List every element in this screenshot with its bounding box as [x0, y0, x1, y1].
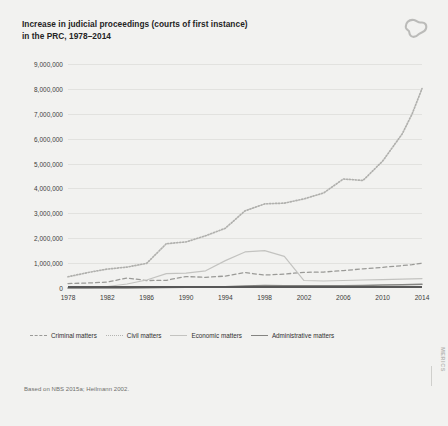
legend-item[interactable]: Criminal matters [30, 332, 97, 339]
legend-item[interactable]: Economic matters [170, 332, 241, 339]
legend-swatch-icon [30, 335, 47, 336]
x-axis-labels: 1978198219861990199419982002200620102014 [68, 292, 422, 308]
x-axis-tick-label: 2014 [415, 294, 430, 301]
merics-logo-icon [402, 16, 428, 40]
chart-page: Increase in judicial proceedings (courts… [0, 0, 448, 426]
x-axis-tick-label: 2002 [297, 294, 312, 301]
line-chart: 9,000,0008,000,0007,000,0006,000,0005,00… [22, 60, 428, 310]
y-axis-tick-label: 7,000,000 [34, 110, 63, 117]
y-axis-tick-label: 0 [59, 285, 63, 292]
chart-legend: Criminal mattersCivil mattersEconomic ma… [30, 332, 434, 339]
x-axis-tick-label: 2010 [375, 294, 390, 301]
title-line-1: Increase in judicial proceedings (courts… [22, 19, 248, 29]
y-axis-tick-label: 6,000,000 [34, 135, 63, 142]
legend-item[interactable]: Civil matters [106, 332, 162, 339]
y-axis-tick-label: 1,000,000 [34, 260, 63, 267]
x-axis-tick-label: 1986 [139, 294, 154, 301]
chart-header: Increase in judicial proceedings (courts… [22, 18, 428, 42]
series-line [68, 89, 422, 277]
y-axis-tick-label: 5,000,000 [34, 160, 63, 167]
edge-divider [431, 366, 432, 386]
y-axis-tick-label: 4,000,000 [34, 185, 63, 192]
x-axis-tick-label: 1998 [257, 294, 272, 301]
plot-area: 9,000,0008,000,0007,000,0006,000,0005,00… [68, 64, 422, 288]
title-line-2: in the PRC, 1978–2014 [22, 30, 248, 42]
edge-brand-label: MERICS [440, 347, 446, 372]
x-axis-tick-label: 1982 [100, 294, 115, 301]
legend-label: Civil matters [127, 332, 162, 339]
x-axis-tick-label: 1978 [61, 294, 76, 301]
legend-label: Economic matters [191, 332, 241, 339]
x-axis-tick-label: 2006 [336, 294, 351, 301]
legend-swatch-icon [170, 335, 187, 336]
x-axis-tick-label: 1990 [179, 294, 194, 301]
legend-swatch-icon [251, 335, 268, 336]
page-title: Increase in judicial proceedings (courts… [22, 18, 248, 42]
series-line [68, 251, 422, 288]
legend-item[interactable]: Administrative matters [251, 332, 334, 339]
y-axis-tick-label: 3,000,000 [34, 210, 63, 217]
legend-label: Administrative matters [272, 332, 334, 339]
x-axis-tick-label: 1994 [218, 294, 233, 301]
y-axis-tick-label: 8,000,000 [34, 85, 63, 92]
x-axis-baseline [68, 286, 422, 288]
y-axis-tick-label: 2,000,000 [34, 235, 63, 242]
series-lines [68, 64, 422, 288]
y-axis-tick-label: 9,000,000 [34, 61, 63, 68]
source-note: Based on NBS 2015a; Heilmann 2002. [24, 386, 129, 392]
legend-swatch-icon [106, 335, 123, 336]
legend-label: Criminal matters [51, 332, 97, 339]
